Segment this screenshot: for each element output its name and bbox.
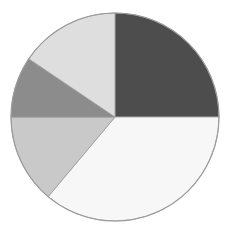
pie-slice-1 — [115, 13, 219, 117]
pie-chart-figure — [0, 0, 230, 236]
pie-slices-group — [11, 13, 219, 221]
pie-chart-svg — [0, 0, 230, 236]
